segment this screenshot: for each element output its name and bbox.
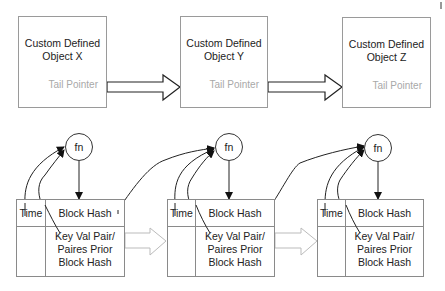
object-title-line2: Object X — [19, 50, 106, 63]
tail-pointer-arrow-y-to-z — [268, 75, 342, 100]
object-title: Custom Defined Object Z — [343, 38, 430, 64]
block-hash-cell: Block Hash — [196, 200, 274, 227]
chain-arrow-1-to-2 — [125, 228, 166, 255]
kv-line2: Paires Prior — [346, 243, 423, 256]
object-title-line1: Custom Defined — [19, 37, 106, 50]
block-hash-cell: Block Hash — [346, 200, 423, 227]
chain-arrow-2-to-3 — [275, 228, 317, 255]
hash-function-node-1: fn — [65, 133, 93, 161]
empty-cell — [17, 227, 46, 276]
object-title-line1: Custom Defined — [181, 37, 267, 50]
object-title-line1: Custom Defined — [343, 38, 430, 51]
block-hash-cell: Block Hash — [46, 200, 124, 227]
block-3: Time Block Hash Key Val Pair/ Paires Pri… — [317, 199, 424, 277]
key-value-cell: Key Val Pair/ Paires Prior Block Hash — [196, 230, 274, 269]
time-cell: Time — [17, 200, 46, 227]
custom-object-y: Custom Defined Object Y Tail Pointer — [180, 16, 268, 108]
time-cell: Time — [168, 200, 196, 227]
empty-cell — [318, 227, 346, 276]
object-title-line2: Object Z — [343, 51, 430, 64]
key-value-cell: Key Val Pair/ Paires Prior Block Hash — [46, 230, 124, 269]
kv-line3: Block Hash — [196, 256, 274, 269]
kv-line1: Key Val Pair/ — [196, 230, 274, 243]
kv-line2: Paires Prior — [196, 243, 274, 256]
object-title: Custom Defined Object Y — [181, 37, 267, 63]
kv-line1: Key Val Pair/ — [346, 230, 423, 243]
block-2: Time Block Hash Key Val Pair/ Paires Pri… — [167, 199, 275, 277]
kv-line2: Paires Prior — [46, 243, 124, 256]
tail-pointer-label: Tail Pointer — [49, 79, 98, 90]
empty-cell — [168, 227, 196, 276]
object-title: Custom Defined Object X — [19, 37, 106, 63]
kv-line3: Block Hash — [46, 256, 124, 269]
time-cell: Time — [318, 200, 346, 227]
kv-line3: Block Hash — [346, 256, 423, 269]
custom-object-z: Custom Defined Object Z Tail Pointer — [342, 17, 431, 108]
hash-function-node-2: fn — [215, 133, 243, 161]
block-1: Time Block Hash Key Val Pair/ Paires Pri… — [16, 199, 125, 277]
tail-pointer-label: Tail Pointer — [373, 80, 422, 91]
tail-pointer-arrow-x-to-y — [107, 75, 180, 100]
kv-line1: Key Val Pair/ — [46, 230, 124, 243]
hash-function-node-3: fn — [364, 134, 392, 162]
custom-object-x: Custom Defined Object X Tail Pointer — [18, 16, 107, 108]
time-to-fn-curve-3 — [325, 147, 364, 203]
tail-pointer-label: Tail Pointer — [210, 79, 259, 90]
key-value-cell: Key Val Pair/ Paires Prior Block Hash — [346, 230, 423, 269]
object-title-line2: Object Y — [181, 50, 267, 63]
